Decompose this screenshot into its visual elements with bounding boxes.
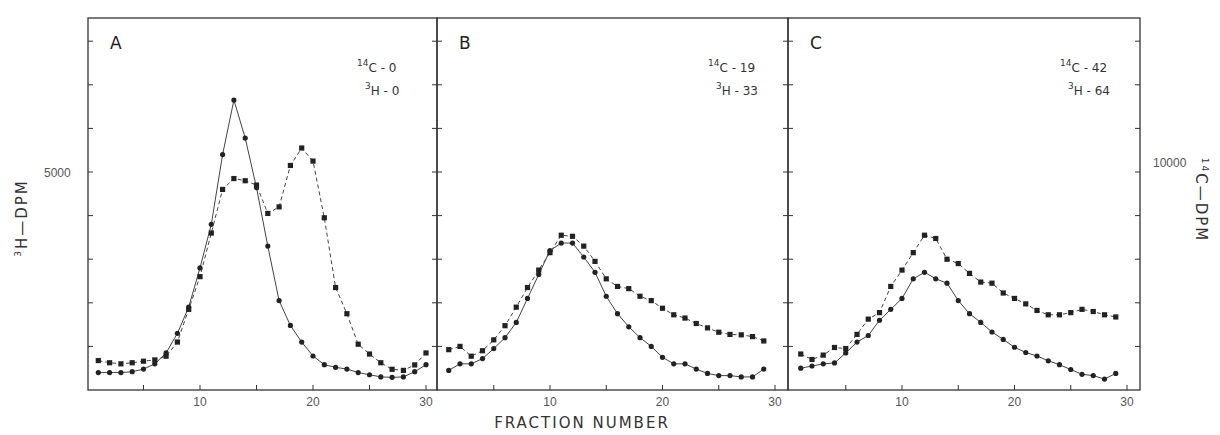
annotation-h3: 3H - 64: [1068, 81, 1110, 98]
marker-square: [107, 360, 112, 365]
marker-circle: [1057, 362, 1062, 367]
marker-square: [367, 351, 372, 356]
marker-square: [888, 284, 893, 289]
marker-circle: [705, 371, 710, 376]
marker-circle: [1113, 371, 1118, 376]
marker-circle: [141, 366, 146, 371]
marker-square: [536, 268, 541, 273]
marker-circle: [243, 135, 248, 140]
annotation-h3: 3H - 33: [716, 81, 758, 98]
marker-square: [265, 211, 270, 216]
marker-circle: [922, 270, 927, 275]
marker-circle: [1046, 358, 1051, 363]
marker-square: [581, 244, 586, 249]
marker-circle: [1023, 350, 1028, 355]
annotation-c14: 14C - 19: [708, 58, 755, 75]
marker-circle: [265, 244, 270, 249]
marker-circle: [514, 320, 519, 325]
marker-square: [649, 298, 654, 303]
marker-circle: [671, 361, 676, 366]
marker-square: [175, 339, 180, 344]
marker-square: [967, 271, 972, 276]
marker-square: [130, 360, 135, 365]
series-3h: [96, 97, 429, 379]
marker-square: [310, 159, 315, 164]
y-right-tick-10000: 10000: [1153, 156, 1187, 170]
x-tick-label: 20: [656, 395, 670, 409]
marker-circle: [682, 361, 687, 366]
marker-square: [637, 294, 642, 299]
marker-square: [333, 285, 338, 290]
marker-square: [559, 233, 564, 238]
marker-circle: [118, 370, 123, 375]
marker-circle: [299, 339, 304, 344]
marker-square: [761, 338, 766, 343]
marker-circle: [390, 375, 395, 380]
marker-circle: [220, 152, 225, 157]
marker-square: [750, 334, 755, 339]
marker-square: [660, 306, 665, 311]
marker-circle: [310, 353, 315, 358]
marker-circle: [637, 335, 642, 340]
marker-square: [446, 347, 451, 352]
marker-square: [96, 358, 101, 363]
marker-square: [164, 354, 169, 359]
marker-square: [809, 357, 814, 362]
marker-square: [899, 268, 904, 273]
marker-circle: [592, 270, 597, 275]
y-right-title-text: C—DPM: [1192, 173, 1210, 242]
marker-square: [933, 236, 938, 241]
marker-square: [277, 204, 282, 209]
marker-square: [299, 145, 304, 150]
y-right-title-sup: 14: [1200, 158, 1210, 173]
marker-square: [843, 346, 848, 351]
marker-circle: [457, 361, 462, 366]
marker-circle: [798, 366, 803, 371]
y-axis-right-title: 14C—DPM: [1192, 158, 1210, 242]
marker-square: [118, 361, 123, 366]
marker-circle: [333, 365, 338, 370]
marker-circle: [989, 329, 994, 334]
marker-square: [141, 359, 146, 364]
marker-square: [288, 163, 293, 168]
marker-circle: [175, 331, 180, 336]
marker-square: [1012, 296, 1017, 301]
marker-circle: [615, 311, 620, 316]
marker-square: [152, 357, 157, 362]
series-14c: [96, 145, 429, 373]
marker-circle: [866, 333, 871, 338]
marker-circle: [809, 363, 814, 368]
x-tick-label: 30: [1120, 395, 1134, 409]
marker-square: [877, 310, 882, 315]
panel-c: 102030: [788, 18, 1140, 409]
marker-square: [832, 345, 837, 350]
svg-text:14C—DPM: 14C—DPM: [1192, 158, 1210, 242]
marker-circle: [231, 97, 236, 102]
panel-letter: C: [810, 33, 822, 53]
marker-circle: [604, 294, 609, 299]
series-14c: [798, 233, 1118, 362]
marker-circle: [559, 240, 564, 245]
marker-circle: [832, 360, 837, 365]
marker-square: [854, 332, 859, 337]
x-tick-label: 10: [193, 395, 207, 409]
panel-frames: 102030A14C - 03H - 0102030B14C - 193H - …: [88, 18, 1140, 409]
marker-circle: [694, 366, 699, 371]
marker-square: [514, 305, 519, 310]
annotation-c14: 14C - 42: [1060, 58, 1107, 75]
annotation-c14: 14C - 0: [357, 58, 396, 75]
marker-square: [671, 312, 676, 317]
marker-square: [1001, 290, 1006, 295]
marker-circle: [750, 374, 755, 379]
svg-text:3H—DPM: 3H—DPM: [13, 179, 31, 257]
marker-circle: [727, 373, 732, 378]
marker-square: [694, 321, 699, 326]
marker-circle: [367, 372, 372, 377]
marker-square: [525, 285, 530, 290]
panel-letter: A: [110, 33, 122, 53]
marker-square: [378, 360, 383, 365]
marker-circle: [581, 254, 586, 259]
marker-circle: [480, 356, 485, 361]
marker-circle: [660, 355, 665, 360]
marker-square: [978, 279, 983, 284]
